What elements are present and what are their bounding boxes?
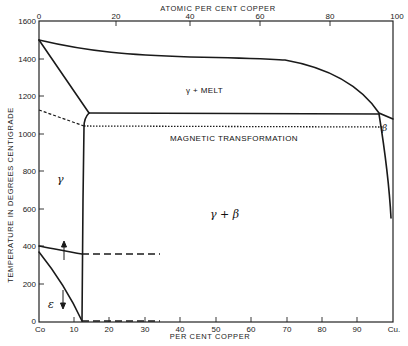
plot-frame xyxy=(39,21,393,322)
bottom-tick-70: 70 xyxy=(283,325,292,334)
left-tick-1000: 1000 xyxy=(18,130,36,139)
phase-boundaries xyxy=(39,40,393,321)
label-gamma-beta: γ + β xyxy=(210,208,239,221)
left-tick-800: 800 xyxy=(23,167,37,176)
top-tick-100: 100 xyxy=(390,12,404,21)
label-gamma-melt: γ + MELT xyxy=(186,86,223,95)
bottom-tick-cu: Cu. xyxy=(388,325,400,334)
bottom-tick-80: 80 xyxy=(318,325,327,334)
left-tick-1600: 1600 xyxy=(18,17,36,26)
bottom-tick-co: Co xyxy=(35,325,46,334)
top-tick-20: 20 xyxy=(112,12,121,21)
bottom-tick-30: 30 xyxy=(141,325,150,334)
gamma-epsilon-upper-line xyxy=(39,246,82,254)
bottom-axis-labels: Co 10 20 30 40 50 60 70 80 90 Cu. PER CE… xyxy=(35,325,400,341)
gamma-epsilon-lower-line xyxy=(39,252,82,321)
gamma-solvus-line xyxy=(82,113,89,321)
top-tick-80: 80 xyxy=(326,12,335,21)
top-axis xyxy=(116,21,330,26)
label-gamma: γ xyxy=(57,173,64,186)
top-tick-40: 40 xyxy=(186,12,195,21)
left-tick-1200: 1200 xyxy=(18,92,36,101)
left-tick-400: 400 xyxy=(23,242,37,251)
magnetic-dashed-gamma xyxy=(39,110,84,126)
magnetic-transformation-line xyxy=(84,126,383,127)
up-arrow-icon xyxy=(62,241,67,247)
label-beta: β xyxy=(381,123,387,133)
bottom-tick-20: 20 xyxy=(105,325,114,334)
left-axis-labels: 0 200 400 600 800 1000 1200 1400 1600 TE… xyxy=(6,17,37,326)
top-tick-60: 60 xyxy=(256,12,265,21)
label-magnetic-transformation: MAGNETIC TRANSFORMATION xyxy=(170,134,298,143)
left-tick-1400: 1400 xyxy=(18,55,36,64)
top-axis-labels: 0 20 40 60 80 100 ATOMIC PER CENT COPPER xyxy=(37,4,404,21)
left-axis-title: TEMPERATURE IN DEGREES CENTIGRADE xyxy=(6,107,15,283)
dashed-extensions xyxy=(39,110,160,321)
liquidus-curve xyxy=(39,40,393,119)
left-tick-200: 200 xyxy=(23,280,37,289)
bottom-tick-90: 90 xyxy=(353,325,362,334)
left-axis xyxy=(39,59,44,284)
bottom-tick-10: 10 xyxy=(70,325,79,334)
top-axis-title: ATOMIC PER CENT COPPER xyxy=(160,4,275,13)
left-tick-600: 600 xyxy=(23,205,37,214)
top-tick-0: 0 xyxy=(37,12,42,21)
gamma-solidus-line xyxy=(39,40,89,113)
down-arrow-icon xyxy=(61,303,66,309)
phase-diagram: 0 20 40 60 80 100 ATOMIC PER CENT COPPER… xyxy=(0,0,408,346)
bottom-axis-title: PER CENT COPPER xyxy=(170,332,251,341)
label-epsilon: ε xyxy=(48,298,54,311)
peritectic-line xyxy=(89,113,379,114)
